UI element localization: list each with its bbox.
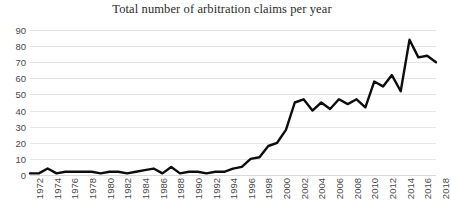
data-series-layer <box>30 30 436 175</box>
x-tick-label-1992: 1992 <box>211 178 222 199</box>
y-tick-label-10: 10 <box>15 153 26 164</box>
x-tick-label-2014: 2014 <box>405 178 416 199</box>
x-tick-label-1982: 1982 <box>122 178 133 199</box>
y-tick-label-90: 90 <box>15 25 26 36</box>
y-tick-label-70: 70 <box>15 57 26 68</box>
y-tick-label-60: 60 <box>15 73 26 84</box>
x-tick-label-1972: 1972 <box>34 178 45 199</box>
y-tick-label-40: 40 <box>15 105 26 116</box>
x-tick-label-2008: 2008 <box>352 178 363 199</box>
x-tick-label-2000: 2000 <box>281 178 292 199</box>
x-tick-label-1996: 1996 <box>246 178 257 199</box>
x-tick-label-2016: 2016 <box>422 178 433 199</box>
y-tick-label-80: 80 <box>15 41 26 52</box>
y-tick-label-50: 50 <box>15 89 26 100</box>
x-tick-label-2002: 2002 <box>299 178 310 199</box>
plot-area <box>30 30 436 175</box>
y-tick-label-0: 0 <box>21 170 26 181</box>
x-tick-label-1998: 1998 <box>263 178 274 199</box>
y-tick-label-20: 20 <box>15 137 26 148</box>
x-axis: 1972197419761978198019821984198619881990… <box>30 176 436 224</box>
x-tick-label-2004: 2004 <box>316 178 327 199</box>
x-tick-label-2018: 2018 <box>440 178 451 199</box>
x-tick-label-1984: 1984 <box>140 178 151 199</box>
line-series-arbitration-claims <box>30 40 436 174</box>
y-tick-label-30: 30 <box>15 121 26 132</box>
x-tick-label-1976: 1976 <box>69 178 80 199</box>
chart-title: Total number of arbitration claims per y… <box>0 2 444 17</box>
x-tick-label-2010: 2010 <box>369 178 380 199</box>
x-tick-label-1978: 1978 <box>87 178 98 199</box>
x-tick-label-2012: 2012 <box>387 178 398 199</box>
x-tick-label-1974: 1974 <box>52 178 63 199</box>
x-tick-label-1994: 1994 <box>228 178 239 199</box>
x-tick-label-1988: 1988 <box>175 178 186 199</box>
x-tick-label-1986: 1986 <box>158 178 169 199</box>
x-tick-label-1990: 1990 <box>193 178 204 199</box>
y-axis: 9080706050403020100 <box>0 0 30 205</box>
x-tick-label-1980: 1980 <box>105 178 116 199</box>
x-tick-label-2006: 2006 <box>334 178 345 199</box>
